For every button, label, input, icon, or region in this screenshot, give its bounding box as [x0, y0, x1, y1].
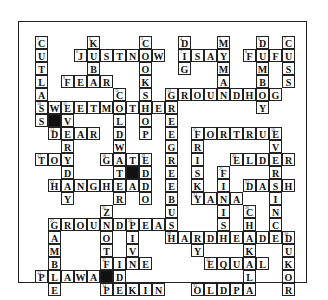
letter-cell[interactable]: L	[48, 270, 61, 283]
letter-cell[interactable]: R	[165, 153, 178, 166]
letter-cell[interactable]: 10S	[35, 101, 48, 114]
letter-cell[interactable]: R	[100, 75, 113, 88]
letter-cell[interactable]: 32E	[204, 257, 217, 270]
letter-cell[interactable]: V	[126, 244, 139, 257]
letter-cell[interactable]: K	[282, 257, 295, 270]
letter-cell[interactable]: U	[87, 49, 100, 62]
letter-cell[interactable]: 4D	[178, 36, 191, 49]
letter-cell[interactable]: O	[139, 114, 152, 127]
letter-cell[interactable]: 20E	[230, 153, 243, 166]
letter-cell[interactable]: L	[243, 270, 256, 283]
letter-cell[interactable]: D	[61, 166, 74, 179]
letter-cell[interactable]: W	[152, 49, 165, 62]
letter-cell[interactable]: E	[269, 231, 282, 244]
letter-cell[interactable]: N	[269, 205, 282, 218]
letter-cell[interactable]: 9F	[61, 75, 74, 88]
letter-cell[interactable]: R	[61, 218, 74, 231]
letter-cell[interactable]: A	[74, 127, 87, 140]
letter-cell[interactable]: 17T	[35, 153, 48, 166]
letter-cell[interactable]: O	[74, 218, 87, 231]
letter-cell[interactable]: I	[269, 192, 282, 205]
letter-cell[interactable]: O	[204, 127, 217, 140]
letter-cell[interactable]: O	[139, 49, 152, 62]
letter-cell[interactable]: L	[113, 114, 126, 127]
letter-cell[interactable]: A	[243, 283, 256, 296]
letter-cell[interactable]: E	[165, 114, 178, 127]
letter-cell[interactable]: 8F	[243, 49, 256, 62]
letter-cell[interactable]: D	[139, 166, 152, 179]
letter-cell[interactable]: H	[243, 218, 256, 231]
letter-cell[interactable]: R	[113, 192, 126, 205]
letter-cell[interactable]: O	[113, 101, 126, 114]
letter-cell[interactable]: Q	[217, 257, 230, 270]
letter-cell[interactable]: O	[256, 88, 269, 101]
letter-cell[interactable]: 2K	[87, 36, 100, 49]
letter-cell[interactable]: B	[48, 257, 61, 270]
letter-cell[interactable]: O	[139, 62, 152, 75]
letter-cell[interactable]: 23D	[243, 179, 256, 192]
letter-cell[interactable]: D	[113, 127, 126, 140]
letter-cell[interactable]: E	[61, 127, 74, 140]
letter-cell[interactable]: R	[178, 88, 191, 101]
letter-cell[interactable]: 35O	[191, 283, 204, 296]
letter-cell[interactable]: P	[139, 127, 152, 140]
letter-cell[interactable]: 26C	[243, 205, 256, 218]
letter-cell[interactable]: 6J	[74, 49, 87, 62]
letter-cell[interactable]: E	[113, 283, 126, 296]
letter-cell[interactable]: 19E	[139, 153, 152, 166]
letter-cell[interactable]: E	[165, 127, 178, 140]
letter-cell[interactable]: 12G	[165, 88, 178, 101]
letter-cell[interactable]: U	[282, 49, 295, 62]
letter-cell[interactable]: U	[256, 127, 269, 140]
letter-cell[interactable]: H	[282, 179, 295, 192]
letter-cell[interactable]: D	[113, 218, 126, 231]
letter-cell[interactable]: B	[165, 192, 178, 205]
letter-cell[interactable]: A	[243, 231, 256, 244]
letter-cell[interactable]: R	[243, 127, 256, 140]
letter-cell[interactable]: 30D	[282, 231, 295, 244]
letter-cell[interactable]: N	[126, 257, 139, 270]
letter-cell[interactable]: U	[165, 205, 178, 218]
letter-cell[interactable]: G	[87, 179, 100, 192]
letter-cell[interactable]: 7I	[178, 49, 191, 62]
letter-cell[interactable]: O	[48, 153, 61, 166]
letter-cell[interactable]: S	[191, 166, 204, 179]
letter-cell[interactable]: N	[126, 49, 139, 62]
letter-cell[interactable]: E	[48, 283, 61, 296]
letter-cell[interactable]: I	[126, 231, 139, 244]
letter-cell[interactable]: A	[230, 192, 243, 205]
letter-cell[interactable]: T	[126, 101, 139, 114]
letter-cell[interactable]: 6D	[256, 36, 269, 49]
letter-cell[interactable]: D	[256, 231, 269, 244]
letter-cell[interactable]: I	[113, 257, 126, 270]
letter-cell[interactable]: 24Y	[191, 192, 204, 205]
letter-cell[interactable]: U	[282, 244, 295, 257]
letter-cell[interactable]: O	[100, 231, 113, 244]
letter-cell[interactable]: V	[61, 114, 74, 127]
letter-cell[interactable]: A	[256, 179, 269, 192]
letter-cell[interactable]: A	[48, 231, 61, 244]
letter-cell[interactable]: R	[282, 283, 295, 296]
letter-cell[interactable]: R	[165, 101, 178, 114]
letter-cell[interactable]: B	[256, 75, 269, 88]
letter-cell[interactable]: S	[35, 114, 48, 127]
letter-cell[interactable]: D	[113, 270, 126, 283]
letter-cell[interactable]: T	[35, 62, 48, 75]
letter-cell[interactable]: S	[139, 88, 152, 101]
letter-cell[interactable]: 14D	[48, 127, 61, 140]
letter-cell[interactable]: T	[113, 49, 126, 62]
letter-cell[interactable]: L	[204, 283, 217, 296]
letter-cell[interactable]: I	[191, 153, 204, 166]
letter-cell[interactable]: K	[126, 283, 139, 296]
letter-cell[interactable]: 15F	[191, 127, 204, 140]
letter-cell[interactable]: Y	[61, 192, 74, 205]
letter-cell[interactable]: O	[139, 192, 152, 205]
letter-cell[interactable]: E	[139, 257, 152, 270]
letter-cell[interactable]: 33P	[35, 270, 48, 283]
letter-cell[interactable]: K	[191, 179, 204, 192]
letter-cell[interactable]: 34P	[100, 283, 113, 296]
letter-cell[interactable]: 11E	[61, 101, 74, 114]
letter-cell[interactable]: S	[165, 218, 178, 231]
letter-cell[interactable]: Y	[61, 153, 74, 166]
letter-cell[interactable]: R	[217, 127, 230, 140]
